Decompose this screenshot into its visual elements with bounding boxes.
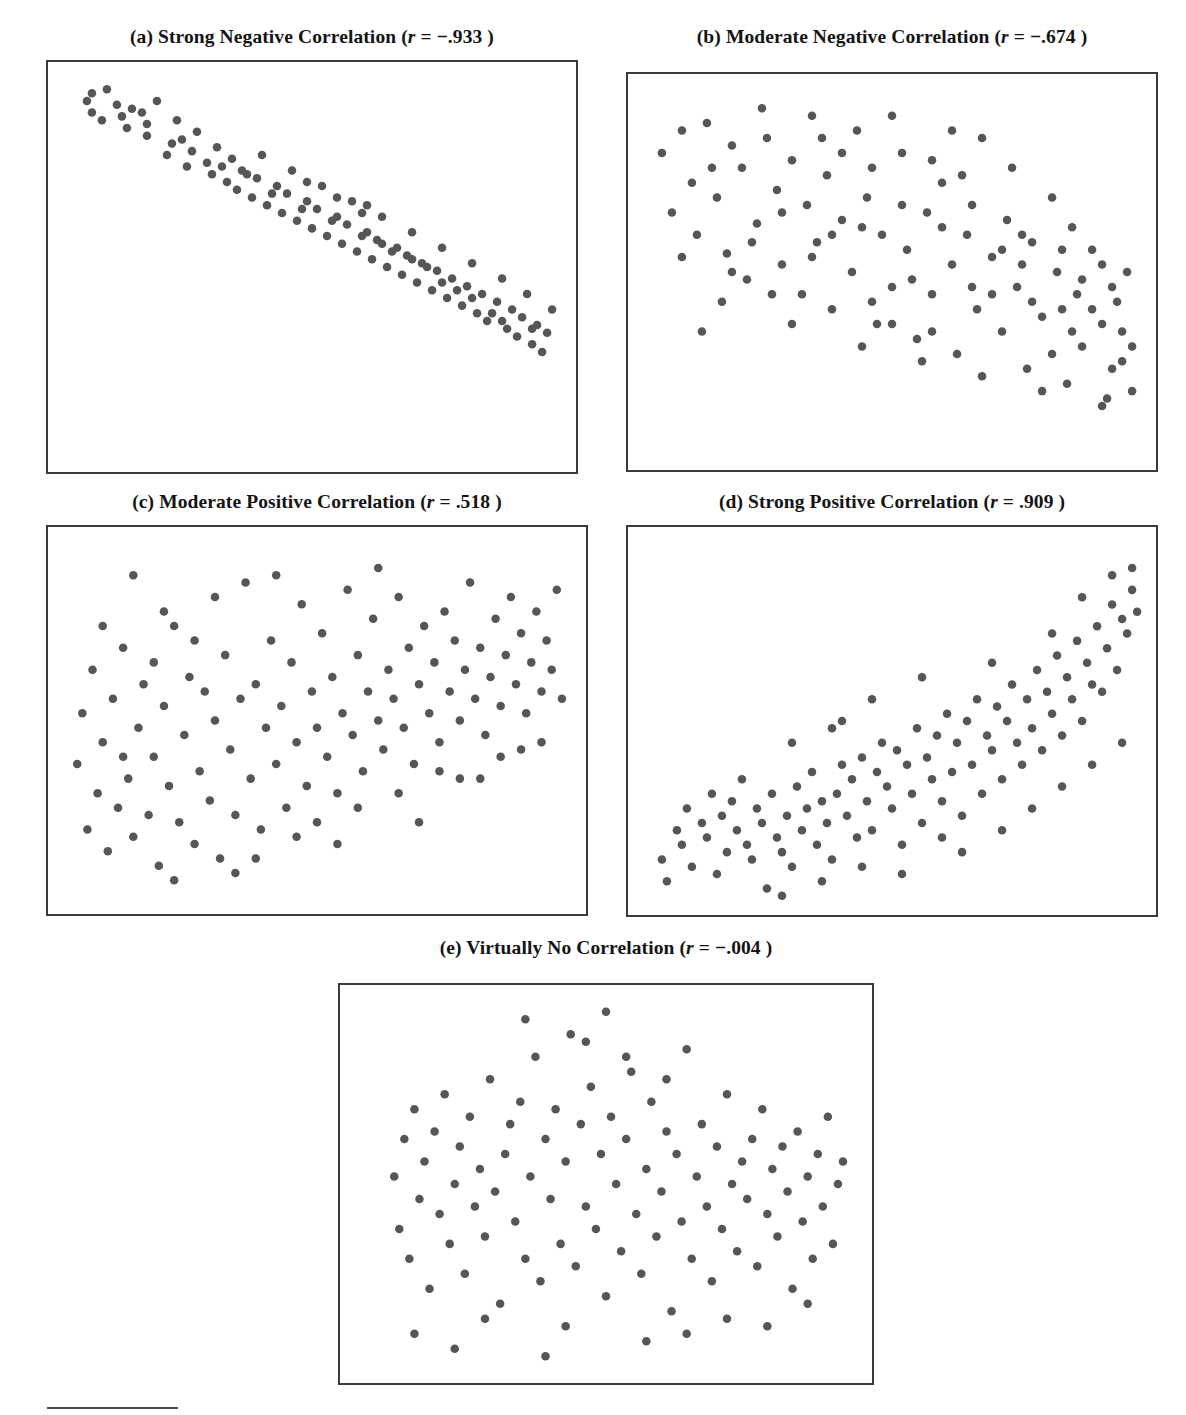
- scatter-point: [566, 1030, 575, 1039]
- scatter-point: [858, 862, 867, 871]
- scatter-point: [104, 847, 113, 856]
- scatter-point: [98, 116, 107, 125]
- scatter-point: [415, 818, 424, 827]
- scatter-point: [978, 134, 987, 143]
- scatter-point: [456, 774, 465, 783]
- panel-a-scatter-svg: [48, 62, 576, 472]
- scatter-point: [448, 274, 457, 283]
- scatter-point: [888, 283, 897, 292]
- scatter-point: [823, 819, 832, 828]
- scatter-point: [558, 694, 567, 703]
- scatter-point: [823, 171, 832, 180]
- scatter-point: [450, 1180, 459, 1189]
- scatter-point: [458, 301, 467, 310]
- scatter-point: [958, 811, 967, 820]
- panel-b-title: (b) Moderate Negative Correlation (r = −…: [626, 26, 1158, 48]
- scatter-point: [233, 185, 242, 194]
- scatter-point: [415, 1195, 424, 1204]
- scatter-point: [378, 213, 387, 222]
- scatter-point: [440, 1090, 449, 1099]
- scatter-point: [523, 290, 532, 299]
- scatter-point: [843, 811, 852, 820]
- scatter-point: [998, 775, 1007, 784]
- scatter-point: [390, 1172, 399, 1181]
- scatter-point: [693, 231, 702, 240]
- scatter-point: [768, 290, 777, 299]
- scatter-point: [433, 267, 442, 276]
- scatter-point: [708, 790, 717, 799]
- scatter-point: [808, 111, 817, 120]
- scatter-point: [662, 1075, 671, 1084]
- scatter-point: [405, 644, 414, 653]
- scatter-point: [958, 848, 967, 857]
- scatter-point: [748, 238, 757, 247]
- scatter-point: [918, 673, 927, 682]
- scatter-point: [358, 209, 367, 218]
- scatter-point: [1113, 666, 1122, 675]
- scatter-point: [773, 833, 782, 842]
- panel-b-name: Moderate Negative Correlation: [726, 26, 990, 47]
- scatter-point: [1003, 216, 1012, 225]
- scatter-point: [478, 290, 487, 299]
- scatter-point: [627, 1067, 636, 1076]
- scatter-point: [143, 120, 152, 129]
- scatter-point: [313, 724, 322, 733]
- scatter-point: [738, 164, 747, 173]
- scatter-point: [868, 826, 877, 835]
- scatter-point: [498, 317, 507, 326]
- scatter-point: [129, 832, 138, 841]
- scatter-point: [829, 1240, 838, 1249]
- scatter-point: [662, 1127, 671, 1136]
- scatter-point: [561, 1322, 570, 1331]
- scatter-point: [728, 797, 737, 806]
- scatter-point: [647, 1097, 656, 1106]
- panel-c-name: Moderate Positive Correlation: [159, 491, 415, 512]
- scatter-point: [208, 170, 217, 179]
- panel-b-r-suffix: ): [1081, 26, 1088, 47]
- scatter-point: [413, 278, 422, 287]
- panel-a-r-prefix: (r =: [401, 26, 436, 47]
- scatter-point: [1128, 387, 1137, 396]
- scatter-point: [160, 607, 169, 616]
- scatter-point: [858, 342, 867, 351]
- scatter-point: [223, 178, 232, 187]
- panel-e-r-value: −.004: [715, 937, 761, 958]
- scatter-point: [988, 658, 997, 667]
- scatter-point: [637, 1270, 646, 1279]
- scatter-point: [83, 825, 92, 834]
- scatter-point: [163, 151, 172, 160]
- scatter-point: [923, 753, 932, 762]
- scatter-point: [211, 593, 220, 602]
- scatter-point: [758, 104, 767, 113]
- scatter-point: [858, 223, 867, 232]
- scatter-point: [1128, 342, 1137, 351]
- panel-d-title: (d) Strong Positive Correlation (r = .90…: [626, 491, 1158, 513]
- scatter-point: [708, 164, 717, 173]
- scatter-point: [768, 1165, 777, 1174]
- scatter-point: [338, 240, 347, 249]
- scatter-point: [410, 760, 419, 769]
- scatter-point: [471, 1202, 480, 1211]
- scatter-point: [486, 673, 495, 682]
- scatter-point: [813, 841, 822, 850]
- scatter-point: [410, 1105, 419, 1114]
- scatter-point: [818, 134, 827, 143]
- scatter-point: [1123, 629, 1132, 638]
- scatter-point: [1018, 260, 1027, 269]
- scatter-point: [858, 753, 867, 762]
- scatter-point: [833, 790, 842, 799]
- scatter-point: [268, 189, 277, 198]
- scatter-point: [1058, 245, 1067, 254]
- scatter-point: [313, 205, 322, 214]
- scatter-point: [456, 716, 465, 725]
- scatter-point: [733, 826, 742, 835]
- scatter-point: [318, 629, 327, 638]
- scatter-point: [1113, 298, 1122, 307]
- scatter-point: [1098, 688, 1107, 697]
- scatter-point: [420, 1157, 429, 1166]
- scatter-point: [288, 166, 297, 175]
- scatter-point: [496, 702, 505, 711]
- scatter-point: [153, 97, 162, 106]
- panel-c-r-prefix: (r =: [420, 491, 455, 512]
- scatter-point: [323, 232, 332, 241]
